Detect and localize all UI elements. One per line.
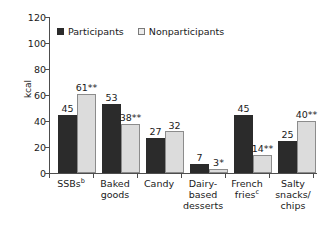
x-category-line: Baked xyxy=(93,178,137,189)
bar-value-nonparticipants-salty-snacks: 40** xyxy=(291,110,322,120)
y-tick-label-100: 100 xyxy=(20,39,46,49)
legend-label-nonparticipants: Nonparticipants xyxy=(149,26,224,37)
bar-value-participants-french-fries: 45 xyxy=(234,104,253,114)
legend: Participants Nonparticipants xyxy=(57,26,224,37)
y-tick-100 xyxy=(45,43,49,44)
y-tick-label-80: 80 xyxy=(20,65,46,75)
y-tick-label-40: 40 xyxy=(20,117,46,127)
x-category-line: goods xyxy=(93,189,137,200)
x-category-line: Candy xyxy=(137,178,181,189)
y-tick-60 xyxy=(45,95,49,96)
x-category-line: desserts xyxy=(181,200,225,211)
y-tick-20 xyxy=(45,147,49,148)
x-axis-line xyxy=(49,173,317,174)
bar-value-participants-candy: 27 xyxy=(146,127,165,137)
plot-area: 45 61** 53 38** 27 32 7 3* 45 14** 25 40… xyxy=(49,17,317,173)
x-category-label-dairy-based-desserts: Dairy- based desserts xyxy=(181,178,225,211)
bar-nonparticipants-french-fries xyxy=(253,155,272,173)
y-tick-120 xyxy=(45,17,49,18)
bar-value-nonparticipants-ssbs: 61** xyxy=(71,83,102,93)
y-tick-label-20: 20 xyxy=(20,143,46,153)
x-category-label-french-fries: French friesc xyxy=(225,178,269,200)
bar-nonparticipants-ssbs xyxy=(77,94,96,173)
y-tick-label-120: 120 xyxy=(20,13,46,23)
x-category-line-wrap: friesc xyxy=(225,189,269,200)
x-category-superscript: b xyxy=(81,177,85,185)
x-category-line: based xyxy=(181,189,225,200)
bar-nonparticipants-candy xyxy=(165,131,184,173)
bar-nonparticipants-salty-snacks xyxy=(297,121,316,173)
x-category-line: French xyxy=(225,178,269,189)
light-square-icon xyxy=(138,28,145,35)
x-category-line: snacks/ xyxy=(269,189,317,200)
bar-nonparticipants-baked-goods xyxy=(121,124,140,173)
y-axis-line xyxy=(49,17,50,174)
bar-participants-candy xyxy=(146,138,165,173)
bar-participants-ssbs xyxy=(58,115,77,174)
x-category-line: Dairy- xyxy=(181,178,225,189)
bar-value-participants-baked-goods: 53 xyxy=(102,93,121,103)
dark-square-icon xyxy=(57,28,64,35)
x-category-superscript: c xyxy=(256,188,260,196)
x-category-label-ssbs: SSBsb xyxy=(49,178,93,189)
x-category-line: fries xyxy=(235,189,256,200)
bar-value-participants-ssbs: 45 xyxy=(58,104,77,114)
bar-value-nonparticipants-candy: 32 xyxy=(165,121,184,131)
legend-label-participants: Participants xyxy=(68,26,124,37)
bar-participants-salty-snacks xyxy=(278,141,297,174)
x-category-label-candy: Candy xyxy=(137,178,181,189)
bar-chart: kcal 120 100 80 60 40 20 0 45 61** xyxy=(0,0,324,229)
bar-value-nonparticipants-french-fries: 14** xyxy=(247,144,278,154)
bar-value-participants-salty-snacks: 25 xyxy=(278,130,297,140)
x-category-line: chips xyxy=(269,200,317,211)
x-category-line: SSBs xyxy=(57,178,81,189)
legend-item-nonparticipants: Nonparticipants xyxy=(138,26,224,37)
y-tick-label-60: 60 xyxy=(20,91,46,101)
y-tick-label-0: 0 xyxy=(20,169,46,179)
x-category-label-baked-goods: Baked goods xyxy=(93,178,137,200)
y-tick-40 xyxy=(45,121,49,122)
legend-item-participants: Participants xyxy=(57,26,124,37)
x-category-label-salty-snacks: Salty snacks/ chips xyxy=(269,178,317,211)
bar-value-nonparticipants-baked-goods: 38** xyxy=(115,113,146,123)
bar-value-nonparticipants-dairy-based-desserts: 3* xyxy=(206,158,231,168)
x-category-line: Salty xyxy=(269,178,317,189)
bar-nonparticipants-dairy-based-desserts xyxy=(209,169,228,173)
y-tick-80 xyxy=(45,69,49,70)
y-axis-tick-labels: 120 100 80 60 40 20 0 xyxy=(20,0,46,229)
